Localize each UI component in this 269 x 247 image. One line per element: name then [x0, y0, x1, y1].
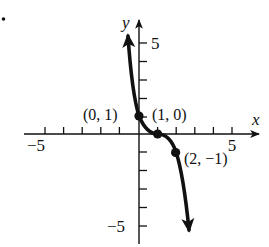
- x-max-label: 5: [228, 136, 237, 155]
- point-1-0: [153, 129, 162, 138]
- y-axis: [139, 20, 147, 244]
- point-label-1-0: (1, 0): [152, 106, 187, 124]
- y-min-label: −5: [107, 217, 125, 236]
- point-label-0-1: (0, 1): [83, 106, 118, 124]
- x-min-label: −5: [27, 136, 45, 155]
- x-axis: [24, 127, 259, 134]
- point-0-1: [134, 111, 143, 120]
- y-axis-label: y: [120, 13, 130, 32]
- function-graph: y x 5 −5 −5 5 (0, 1) (1, 0) (2, −1): [0, 0, 269, 247]
- x-axis-label: x: [251, 110, 260, 129]
- point-label-2-neg1: (2, −1): [184, 150, 228, 168]
- stray-dot: [2, 17, 6, 21]
- point-2-neg1: [171, 148, 180, 157]
- y-max-label: 5: [151, 34, 160, 53]
